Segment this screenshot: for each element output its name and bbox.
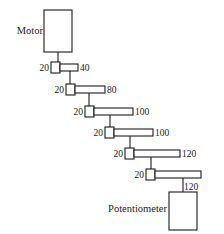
stage-6-gear-teeth-label: 120 [184,182,199,192]
stage-2-gear-box [75,86,105,93]
stage-5-gear-teeth-label: 120 [182,149,197,159]
gear-train-diagram: Motor 20 40 20 80 20 100 20 100 [0,0,224,234]
stage-2-gear-teeth-label: 80 [107,85,117,95]
stage-6-pinion-teeth-label: 20 [135,170,145,180]
stage-3-gear-box [94,108,133,115]
stage-5-pinion-teeth-label: 20 [114,149,124,159]
stage-4-pinion-box [105,127,114,138]
stage-4-pinion-teeth-label: 20 [94,128,104,138]
stage-5-gear-box [134,150,180,157]
stage-3-gear-teeth-label: 100 [135,107,150,117]
stage-2-pinion-teeth-label: 20 [55,85,65,95]
motor-label: Motor [17,25,44,36]
gear-train-canvas: Motor 20 40 20 80 20 100 20 100 [0,0,224,234]
stage-3-pinion-teeth-label: 20 [74,107,84,117]
stage-5-pinion-box [125,148,134,159]
stage-1-gear-box [60,64,78,71]
stage-1-pinion-box [51,62,60,73]
stage-2-group: 20 80 [55,84,117,95]
stage-1-group: 20 40 [40,62,90,73]
stage-6-gear-box [155,171,201,178]
stage-6-group: 20 120 [135,169,202,192]
stage-3-pinion-box [85,106,94,117]
motor-group: Motor [17,10,72,52]
potentiometer-group: Potentiometer [108,192,197,230]
stage-1-pinion-teeth-label: 20 [40,63,50,73]
potentiometer-label: Potentiometer [108,203,167,214]
stage-3-group: 20 100 [74,106,150,117]
potentiometer-box [169,192,197,230]
stage-4-gear-box [114,129,153,136]
stage-5-group: 20 120 [114,148,197,159]
stage-4-gear-teeth-label: 100 [155,128,170,138]
motor-box [44,10,72,52]
stage-2-pinion-box [66,84,75,95]
stage-1-gear-teeth-label: 40 [80,63,90,73]
stage-6-pinion-box [146,169,155,180]
stage-4-group: 20 100 [94,127,170,138]
